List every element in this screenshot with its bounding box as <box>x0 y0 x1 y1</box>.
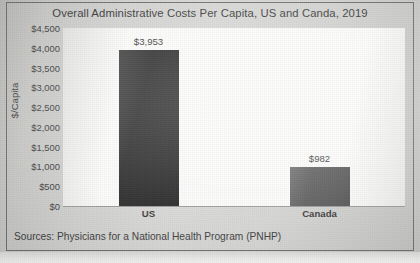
y-axis-tick: $1,500 <box>31 141 60 152</box>
scanned-chart-page: Overall Administrative Costs Per Capita,… <box>0 0 420 263</box>
y-axis-tick: $0 <box>50 201 60 212</box>
bar-group-canada: $982 <box>290 28 350 206</box>
source-note: Sources: Physicians for a National Healt… <box>14 231 281 242</box>
y-axis-tick: $1,000 <box>31 161 60 172</box>
y-axis-tick: $3,500 <box>31 62 60 73</box>
y-axis-tick-labels: $0$500$1,000$1,500$2,000$2,500$3,000$3,5… <box>18 28 60 206</box>
bar-us <box>119 50 179 206</box>
x-axis-category-labels: USCanada <box>63 208 405 224</box>
bar-value-label: $3,953 <box>134 36 163 47</box>
bar-canada <box>290 167 350 206</box>
category-label-canada: Canada <box>302 208 337 219</box>
y-axis-tick: $2,500 <box>31 102 60 113</box>
bars-container: $3,953$982 <box>63 28 405 206</box>
x-axis-baseline <box>63 206 405 207</box>
chart-title: Overall Administrative Costs Per Capita,… <box>6 7 414 19</box>
bar-value-label: $982 <box>309 153 330 164</box>
category-label-us: US <box>142 208 155 219</box>
y-axis-tick: $4,000 <box>31 42 60 53</box>
y-axis-tick: $2,000 <box>31 121 60 132</box>
y-axis-tick: $500 <box>39 181 60 192</box>
y-axis-tick: $4,500 <box>31 23 60 34</box>
y-axis-tick: $3,000 <box>31 82 60 93</box>
page-bottom-strip <box>0 252 420 263</box>
bar-group-us: $3,953 <box>119 28 179 206</box>
